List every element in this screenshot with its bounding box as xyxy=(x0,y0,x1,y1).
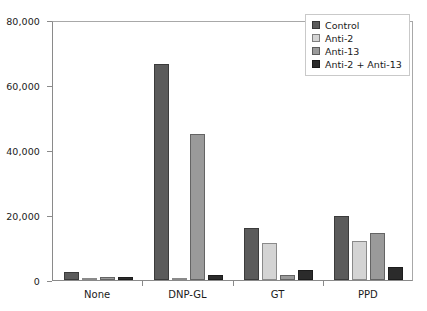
x-tick-label: DNP-GL xyxy=(168,289,206,300)
bar xyxy=(280,275,295,280)
bar xyxy=(388,267,403,280)
bar xyxy=(370,233,385,280)
bar-group-dnp-gl xyxy=(143,22,233,280)
legend: ControlAnti-2Anti-13Anti-2 + Anti-13 xyxy=(305,14,410,76)
legend-label: Control xyxy=(325,20,359,31)
legend-swatch-icon xyxy=(312,47,320,55)
bar xyxy=(118,277,133,280)
bar-group-none xyxy=(53,22,143,280)
legend-label: Anti-2 xyxy=(325,33,353,44)
y-tick-mark xyxy=(47,151,52,152)
y-tick-mark xyxy=(47,86,52,87)
bar xyxy=(100,277,115,280)
y-tick-label: 60,000 xyxy=(6,81,40,92)
legend-item: Anti-2 + Anti-13 xyxy=(312,58,402,70)
bar xyxy=(334,216,349,280)
legend-label: Anti-13 xyxy=(325,46,359,57)
bar xyxy=(64,272,79,280)
x-tick-label: None xyxy=(84,289,110,300)
y-tick-label: 40,000 xyxy=(6,146,40,157)
bar xyxy=(82,278,97,280)
bar xyxy=(352,241,367,280)
bar xyxy=(154,64,169,280)
legend-swatch-icon xyxy=(312,60,320,68)
y-tick-label: 80,000 xyxy=(6,16,40,27)
x-tick-mark xyxy=(142,281,143,286)
x-tick-label: GT xyxy=(271,289,285,300)
y-tick-mark xyxy=(47,216,52,217)
x-tick-label: PPD xyxy=(358,289,378,300)
legend-item: Anti-2 xyxy=(312,32,402,44)
y-tick-mark xyxy=(47,281,52,282)
bar xyxy=(208,275,223,280)
y-tick-label: 0 xyxy=(34,276,40,287)
legend-item: Anti-13 xyxy=(312,45,402,57)
bar xyxy=(244,228,259,280)
x-tick-mark xyxy=(233,281,234,286)
bar xyxy=(190,134,205,280)
bar-chart: 020,00040,00060,00080,000 NoneDNP-GLGTPP… xyxy=(0,0,427,311)
x-tick-mark xyxy=(323,281,324,286)
bar xyxy=(298,270,313,280)
y-axis: 020,00040,00060,00080,000 xyxy=(0,0,46,311)
bar xyxy=(172,278,187,280)
y-tick-label: 20,000 xyxy=(6,211,40,222)
legend-item: Control xyxy=(312,19,402,31)
bar xyxy=(262,243,277,280)
legend-swatch-icon xyxy=(312,34,320,42)
legend-label: Anti-2 + Anti-13 xyxy=(325,59,402,70)
legend-swatch-icon xyxy=(312,21,320,29)
y-tick-mark xyxy=(47,21,52,22)
